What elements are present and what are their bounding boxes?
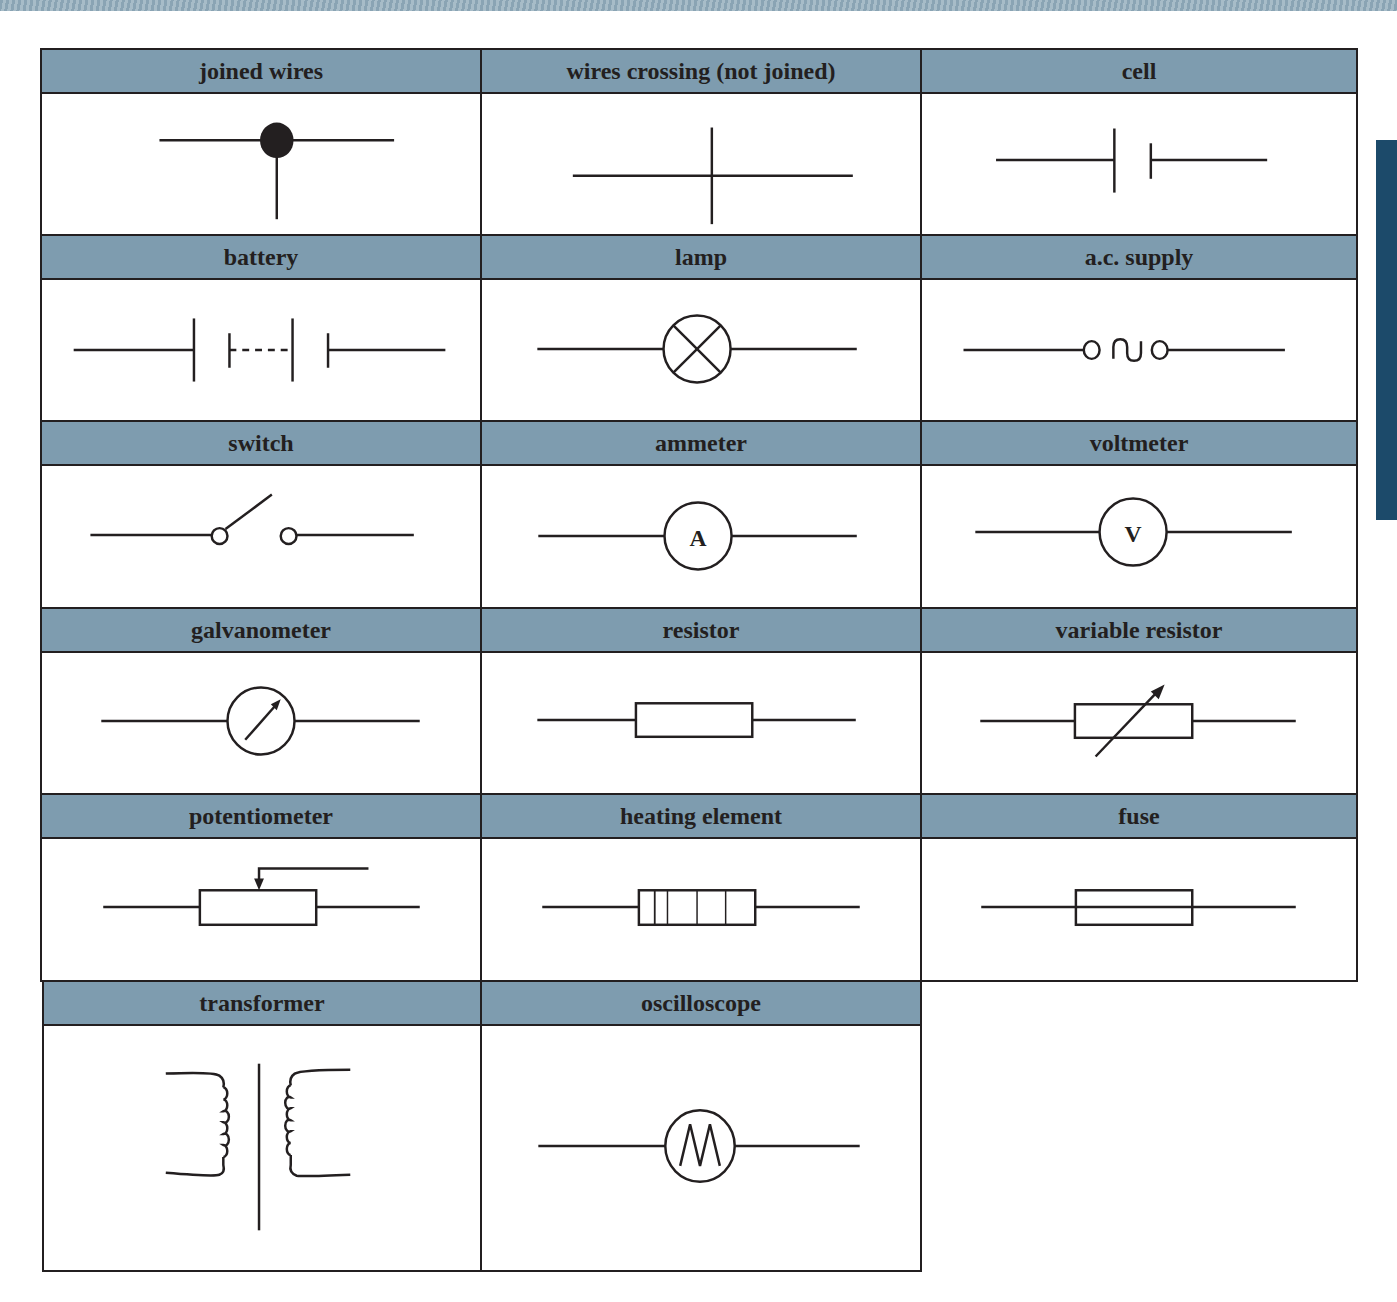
symbol-cell-joined-wires: joined wires	[40, 48, 482, 236]
svg-text:A: A	[689, 525, 706, 551]
symbol-cell-ac-supply: a.c. supply	[920, 234, 1358, 422]
symbol-label: galvanometer	[42, 609, 480, 653]
symbol-label: wires crossing (not joined)	[482, 50, 920, 94]
joined-wires-icon	[42, 94, 480, 234]
symbol-label: battery	[42, 236, 480, 280]
symbol-label: fuse	[922, 795, 1356, 839]
heating-element-icon	[482, 839, 920, 980]
symbol-cell-heating-element: heating element	[480, 793, 922, 982]
symbol-cell-wires-crossing: wires crossing (not joined)	[480, 48, 922, 236]
symbol-cell-oscilloscope: oscilloscope	[480, 980, 922, 1272]
symbol-cell-voltmeter: voltmeter V	[920, 420, 1358, 609]
lamp-icon	[482, 280, 920, 420]
symbol-cell-fuse: fuse	[920, 793, 1358, 982]
symbol-label: potentiometer	[42, 795, 480, 839]
symbol-cell-variable-resistor: variable resistor	[920, 607, 1358, 795]
symbol-cell-potentiometer: potentiometer	[40, 793, 482, 982]
wires-crossing-icon	[482, 94, 920, 234]
symbol-label: a.c. supply	[922, 236, 1356, 280]
symbol-label: variable resistor	[922, 609, 1356, 653]
symbol-cell-battery: battery	[40, 234, 482, 422]
transformer-icon	[44, 1026, 480, 1270]
symbol-cell-switch: switch	[40, 420, 482, 609]
symbol-cell-ammeter: ammeter A	[480, 420, 922, 609]
symbol-cell-galvanometer: galvanometer	[40, 607, 482, 795]
switch-icon	[42, 466, 480, 607]
symbol-cell-transformer: transformer	[42, 980, 482, 1272]
symbol-label: oscilloscope	[482, 982, 920, 1026]
cell-icon	[922, 94, 1356, 234]
voltmeter-icon: V	[922, 466, 1356, 607]
symbol-label: voltmeter	[922, 422, 1356, 466]
svg-text:V: V	[1125, 521, 1142, 547]
symbol-label: ammeter	[482, 422, 920, 466]
fuse-icon	[922, 839, 1356, 980]
symbol-cell-lamp: lamp	[480, 234, 922, 422]
symbol-label: transformer	[44, 982, 480, 1026]
resistor-icon	[482, 653, 920, 793]
symbol-cell-resistor: resistor	[480, 607, 922, 795]
battery-icon	[42, 280, 480, 420]
symbol-cell-cell: cell	[920, 48, 1358, 236]
symbol-label: switch	[42, 422, 480, 466]
chapter-side-tab	[1376, 140, 1397, 520]
ac-supply-icon	[922, 280, 1356, 420]
symbol-label: lamp	[482, 236, 920, 280]
ammeter-icon: A	[482, 466, 920, 607]
symbol-label: joined wires	[42, 50, 480, 94]
symbol-label: heating element	[482, 795, 920, 839]
symbol-label: cell	[922, 50, 1356, 94]
oscilloscope-icon	[482, 1026, 920, 1270]
potentiometer-icon	[42, 839, 480, 980]
variable-resistor-icon	[922, 653, 1356, 793]
page-top-band	[0, 0, 1397, 11]
galvanometer-icon	[42, 653, 480, 793]
symbol-label: resistor	[482, 609, 920, 653]
